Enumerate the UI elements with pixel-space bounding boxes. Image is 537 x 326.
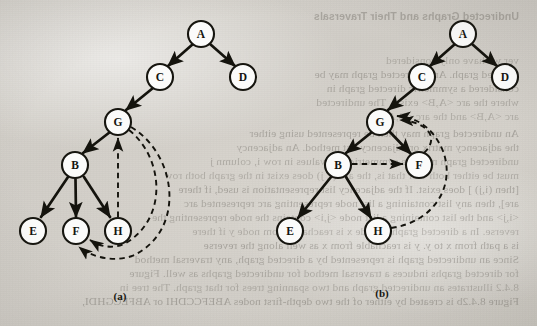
scanned-book-page: Undirected Graphs and Their Traversalsve… [0,0,537,326]
node-label: F [72,225,79,237]
node-b-C[interactable]: C [409,64,435,90]
figure-label-b: (b) [375,287,389,300]
node-b-F[interactable]: F [406,152,432,178]
node-a-F[interactable]: F [63,218,89,244]
edge-b-to-e [41,177,68,217]
node-label: A [197,28,206,40]
node-label: B [71,159,79,171]
node-a-D[interactable]: D [230,64,256,90]
node-label: E [286,225,294,237]
edge-g-to-b [83,132,110,153]
node-a-H[interactable]: H [105,218,131,244]
node-label: E [29,225,37,237]
edge-b-to-h [84,177,110,217]
node-a-G[interactable]: G [105,109,131,135]
edge-a-to-c [430,44,455,66]
node-label: C [418,71,426,83]
node-a-B[interactable]: B [62,152,88,178]
node-b-B[interactable]: B [325,152,351,178]
edge-a-to-d [472,44,497,66]
node-label: A [459,28,468,40]
edge-a-to-c [168,44,193,66]
node-b-H[interactable]: H [365,218,391,244]
node-b-A[interactable]: A [450,21,476,47]
figure-label-a: (a) [114,290,127,303]
node-label: D [239,71,247,83]
edge-g-to-f [389,131,411,154]
edge-b-to-f [76,179,77,217]
graph-a: A C D G B [20,21,256,303]
node-label: G [376,116,385,128]
node-label: H [114,225,123,237]
edge-b-to-h [346,177,371,218]
edge-c-to-g [126,88,153,110]
edge-g-to-b [346,132,372,153]
node-b-D[interactable]: D [492,64,518,90]
edge-a-to-d [210,44,235,66]
graph-a-tree-edges [41,44,235,217]
node-label: G [114,116,123,128]
node-b-G[interactable]: G [367,109,393,135]
node-a-C[interactable]: C [147,64,173,90]
edge-b-to-e [298,177,331,218]
node-b-E[interactable]: E [277,218,303,244]
node-label: B [334,159,342,171]
graph-b: A C D G B [277,21,518,300]
figure-graph-traversal-pair: A C D G B [0,0,537,326]
node-label: H [374,225,383,237]
edge-c-to-g [388,88,415,110]
graph-b-tree-edges [298,44,497,218]
node-a-A[interactable]: A [188,21,214,47]
node-label: F [415,159,422,171]
node-label: D [501,71,509,83]
node-a-E[interactable]: E [20,218,46,244]
node-label: C [156,71,164,83]
